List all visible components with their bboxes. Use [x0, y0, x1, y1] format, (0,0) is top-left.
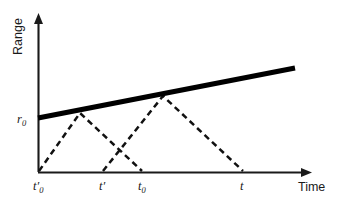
y-axis-arrowhead-icon	[34, 13, 43, 24]
y-axis-title: Range	[11, 18, 25, 55]
figure-canvas: r0 t′0 t′ t0 t Range Time	[0, 0, 340, 202]
x-axis-arrowhead-icon	[301, 168, 312, 177]
x-tick-label-t0-sub: 0	[141, 185, 146, 195]
x-tick-label-t-prime-base: t′	[99, 179, 105, 193]
x-tick-label-t-prime-0-sub: 0	[39, 185, 44, 195]
x-axis-title: Time	[298, 180, 325, 194]
x-axis	[38, 168, 312, 177]
x-tick-label-t-prime-0: t′0	[33, 179, 44, 195]
first-dashed-triangle	[39, 113, 142, 171]
x-tick-label-t-prime: t′	[99, 179, 105, 193]
y-axis	[34, 13, 43, 172]
y-tick-label-r0-sub: 0	[22, 118, 27, 128]
range-track-line	[38, 68, 295, 118]
y-tick-label-r0: r0	[17, 112, 27, 128]
x-tick-label-t: t	[240, 179, 244, 193]
second-dashed-triangle	[103, 96, 243, 171]
x-tick-label-t0: t0	[138, 179, 146, 195]
range-time-figure: r0 t′0 t′ t0 t Range Time	[0, 0, 340, 202]
x-tick-label-t-base: t	[240, 179, 244, 193]
